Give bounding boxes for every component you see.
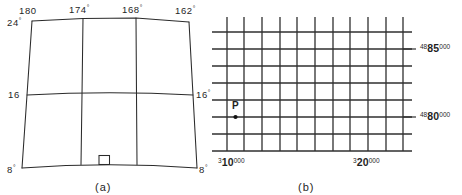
panel-b-caption: (b) — [298, 181, 314, 193]
label-meridian-174: 174° — [69, 4, 90, 15]
graticule-parallels — [27, 93, 193, 95]
label-parallel-24-left: 24° — [7, 17, 22, 28]
panel-a-graticule: 180 174° 168° 162° 24° 16 8° 1 — [0, 0, 231, 195]
label-easting-310000: 310000 — [218, 156, 245, 168]
panel-b-svg: P 4885000 4880000 310000 320000 (b) — [200, 0, 462, 195]
panel-a-caption: (a) — [95, 181, 111, 193]
grid-horizontal-lines — [212, 32, 412, 151]
figure-container: 180 174° 168° 162° 24° 16 8° 1 — [0, 0, 462, 195]
point-p-label: P — [232, 100, 239, 111]
label-meridian-168: 168° — [122, 4, 143, 15]
label-meridian-162: 162° — [175, 5, 196, 16]
label-easting-320000: 320000 — [353, 156, 380, 168]
point-p-dot — [233, 115, 237, 119]
label-parallel-16-left: 16 — [8, 89, 20, 100]
label-northing-4885000: 4885000 — [420, 42, 451, 54]
panel-a-svg: 180 174° 168° 162° 24° 16 8° 1 — [0, 0, 231, 195]
square-marker-symbol — [99, 156, 110, 165]
label-northing-4880000: 4880000 — [420, 110, 451, 122]
label-parallel-8-left: 8° — [7, 164, 16, 175]
point-p-marker: P — [232, 100, 239, 119]
label-meridian-180: 180 — [19, 5, 37, 16]
graticule-meridians — [81, 18, 137, 165]
grid-vertical-lines — [227, 17, 403, 151]
panel-b-grid: P 4885000 4880000 310000 320000 (b) — [200, 0, 462, 195]
